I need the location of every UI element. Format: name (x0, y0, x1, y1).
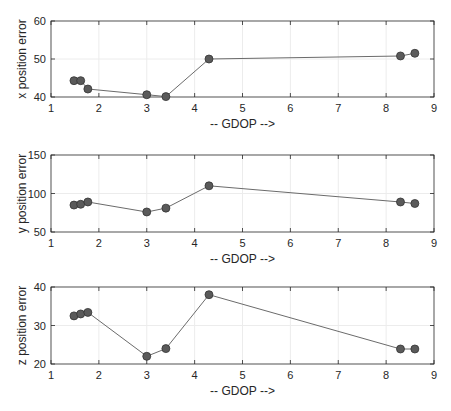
data-point-marker (84, 308, 92, 316)
data-point-marker (396, 52, 404, 60)
data-line (74, 53, 415, 96)
x-tick-label: 9 (431, 369, 437, 381)
x-tick-label: 3 (144, 369, 150, 381)
data-point-marker (411, 200, 419, 208)
x-tick-label: 9 (431, 102, 437, 114)
x-tick-label: 6 (287, 237, 293, 249)
y-axis-label: x position error (15, 19, 29, 98)
x-axis-label: -- GDOP --> (210, 117, 275, 131)
x-tick-label: 3 (144, 237, 150, 249)
grid-lines (51, 21, 434, 97)
chart-svg: 123456789405060-- GDOP -->x position err… (0, 0, 451, 411)
x-tick-label: 2 (96, 369, 102, 381)
y-tick-label: 30 (34, 320, 46, 332)
y-axis-label: y position error (15, 154, 29, 233)
y-tick-label: 20 (34, 358, 46, 370)
x-tick-label: 1 (48, 369, 54, 381)
x-tick-label: 4 (192, 369, 198, 381)
x-tick-label: 5 (239, 369, 245, 381)
data-point-marker (143, 208, 151, 216)
y-axis-label: z position error (15, 286, 29, 365)
grid-lines (51, 287, 434, 364)
subplot-x: 123456789405060-- GDOP -->x position err… (15, 15, 437, 131)
x-tick-label: 7 (335, 237, 341, 249)
data-point-marker (411, 49, 419, 57)
x-tick-label: 5 (239, 237, 245, 249)
x-tick-label: 1 (48, 102, 54, 114)
data-point-marker (77, 77, 85, 85)
subplot-z: 123456789203040-- GDOP -->z position err… (15, 281, 437, 398)
y-tick-label: 40 (34, 281, 46, 293)
x-tick-label: 4 (192, 102, 198, 114)
data-point-marker (143, 352, 151, 360)
data-point-marker (205, 55, 213, 63)
data-line (74, 186, 415, 212)
data-point-marker (77, 200, 85, 208)
data-point-marker (143, 91, 151, 99)
x-tick-label: 5 (239, 102, 245, 114)
grid-lines (51, 155, 434, 232)
data-point-marker (84, 198, 92, 206)
data-point-marker (396, 198, 404, 206)
data-point-marker (205, 291, 213, 299)
x-axis-label: -- GDOP --> (210, 384, 275, 398)
x-tick-label: 6 (287, 369, 293, 381)
x-tick-label: 8 (383, 102, 389, 114)
data-point-marker (411, 345, 419, 353)
y-tick-label: 40 (34, 91, 46, 103)
data-point-marker (162, 345, 170, 353)
x-tick-label: 8 (383, 369, 389, 381)
x-tick-label: 1 (48, 237, 54, 249)
x-tick-label: 2 (96, 237, 102, 249)
x-tick-label: 4 (192, 237, 198, 249)
x-tick-label: 6 (287, 102, 293, 114)
y-tick-label: 50 (34, 226, 46, 238)
subplot-y: 12345678950100150-- GDOP -->y position e… (15, 149, 437, 266)
data-point-marker (205, 182, 213, 190)
data-point-marker (84, 85, 92, 93)
data-point-marker (396, 345, 404, 353)
x-tick-label: 9 (431, 237, 437, 249)
y-tick-label: 100 (28, 188, 46, 200)
x-tick-label: 3 (144, 102, 150, 114)
data-point-marker (162, 93, 170, 101)
data-point-marker (162, 204, 170, 212)
x-tick-label: 7 (335, 102, 341, 114)
x-tick-label: 7 (335, 369, 341, 381)
x-axis-label: -- GDOP --> (210, 252, 275, 266)
x-tick-label: 8 (383, 237, 389, 249)
y-tick-label: 50 (34, 53, 46, 65)
y-tick-label: 150 (28, 149, 46, 161)
x-tick-label: 2 (96, 102, 102, 114)
data-point-marker (77, 310, 85, 318)
y-tick-label: 60 (34, 15, 46, 27)
chart-figure: 123456789405060-- GDOP -->x position err… (0, 0, 451, 411)
